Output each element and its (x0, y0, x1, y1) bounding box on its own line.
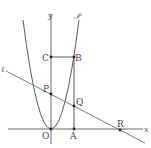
y-axis-label: y (47, 11, 53, 20)
point-q (73, 105, 76, 108)
point-o (50, 128, 53, 131)
label-b: B (75, 53, 82, 63)
parabola-label: 𝒫 (74, 12, 82, 21)
label-q: Q (76, 97, 83, 107)
label-c: C (42, 53, 49, 63)
point-a (73, 128, 76, 131)
label-r: R (117, 119, 124, 129)
line-label: ℓ (1, 65, 5, 74)
point-r (119, 129, 122, 132)
point-p (50, 93, 53, 96)
label-o: O (42, 131, 49, 141)
point-c (50, 56, 53, 59)
x-axis-label: x (144, 125, 149, 134)
geometry-diagram: y x 𝒫 ℓ O A B C P Q R (0, 0, 151, 148)
label-p: P (43, 84, 49, 94)
label-a: A (69, 131, 77, 141)
